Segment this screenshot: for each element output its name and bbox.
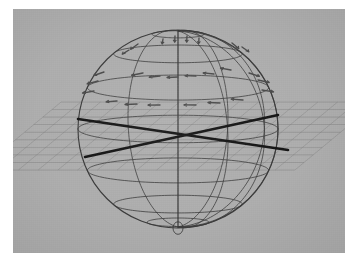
surface-marker-arrow: [197, 38, 200, 43]
surface-marker-arrow: [132, 73, 143, 76]
surface-marker-arrow: [231, 98, 243, 100]
plane-grid-line-vertical: [78, 102, 160, 170]
sphere-plane-scene: [13, 9, 345, 253]
plane-grid-line-vertical: [13, 102, 61, 170]
plane-grid-line-vertical: [18, 102, 100, 170]
surface-marker-arrow: [167, 76, 178, 78]
surface-marker-arrow: [184, 104, 196, 106]
figure-panel: [13, 9, 345, 253]
axis-line-b: [85, 115, 278, 157]
surface-marker-arrow: [125, 103, 137, 105]
surface-marker-arrow: [242, 47, 249, 52]
surface-marker-arrow: [131, 44, 138, 49]
axis-overlay-group: [78, 115, 288, 157]
surface-marker-arrow: [148, 104, 160, 106]
surface-marker-arrow: [122, 50, 129, 54]
figure-stage: [0, 0, 353, 265]
surface-marker-arrow: [185, 36, 188, 42]
surface-marker-arrow: [83, 91, 94, 94]
plane-grid-line-vertical: [97, 102, 179, 170]
surface-marker-arrow: [203, 72, 214, 74]
surface-marker-arrow: [149, 76, 160, 78]
surface-marker-arrow: [221, 68, 231, 70]
surface-marker-arrow: [173, 36, 176, 42]
plane-grid-line-vertical: [255, 102, 337, 170]
surface-marker-arrow: [161, 39, 164, 44]
plane-grid-line-vertical: [295, 102, 345, 170]
plane-grid-line-vertical: [196, 102, 278, 170]
surface-marker-arrow: [106, 100, 117, 102]
